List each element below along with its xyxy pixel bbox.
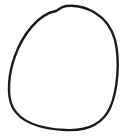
- drawing-canvas: [0, 0, 122, 140]
- oval-sketch-icon: [0, 0, 122, 140]
- oval-outline: [9, 6, 118, 130]
